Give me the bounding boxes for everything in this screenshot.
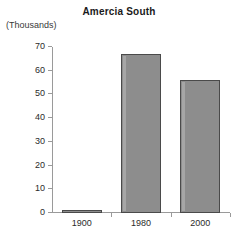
bar-chart: Amercia South (Thousands) 01020304050607… xyxy=(0,0,238,244)
y-tick-mark xyxy=(48,117,52,118)
y-tick-mark xyxy=(48,93,52,94)
bar-1900 xyxy=(62,210,102,213)
y-tick-label: 70 xyxy=(15,41,45,51)
y-tick-mark xyxy=(48,188,52,189)
y-tick-mark xyxy=(48,165,52,166)
y-tick-mark xyxy=(48,46,52,47)
bar-highlight xyxy=(182,82,185,211)
x-tick-mark xyxy=(230,213,231,217)
x-tick-mark xyxy=(111,213,112,217)
y-tick-mark xyxy=(48,212,52,213)
y-tick-label: 10 xyxy=(15,183,45,193)
y-tick-label: 60 xyxy=(15,65,45,75)
y-tick-mark xyxy=(48,141,52,142)
bar-1980 xyxy=(121,54,161,213)
y-tick-label: 50 xyxy=(15,88,45,98)
x-label-1900: 1900 xyxy=(52,218,112,228)
chart-title: Amercia South xyxy=(0,6,238,17)
y-axis-label: (Thousands) xyxy=(6,20,57,30)
bar-highlight xyxy=(123,56,126,211)
bar-2000 xyxy=(180,80,220,213)
y-tick-label: 40 xyxy=(15,112,45,122)
y-tick-mark xyxy=(48,70,52,71)
plot-area: 010203040506070 xyxy=(52,47,230,213)
x-label-2000: 2000 xyxy=(170,218,230,228)
x-label-1980: 1980 xyxy=(111,218,171,228)
y-tick-label: 20 xyxy=(15,160,45,170)
x-tick-mark xyxy=(171,213,172,217)
y-tick-label: 30 xyxy=(15,136,45,146)
y-tick-label: 0 xyxy=(15,207,45,217)
